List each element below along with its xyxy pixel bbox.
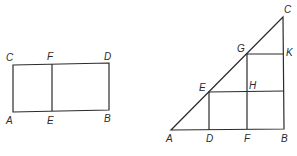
label-c: C	[6, 52, 14, 63]
label-e: E	[199, 82, 206, 93]
geometry-diagram: C F D A E B C G K E H A D F B	[0, 0, 297, 156]
label-h: H	[249, 80, 257, 91]
label-f: F	[244, 133, 251, 144]
triangle-abc	[171, 17, 284, 130]
left-figure: C F D A E B	[5, 51, 111, 126]
label-g: G	[237, 43, 245, 54]
label-b: B	[281, 133, 288, 144]
label-a: A	[165, 133, 173, 144]
label-k: K	[286, 47, 294, 58]
label-d: D	[206, 133, 213, 144]
label-a: A	[5, 115, 13, 126]
rectangle-abdc	[13, 63, 109, 112]
right-figure: C G K E H A D F B	[165, 4, 294, 144]
segment-eh	[208, 91, 284, 92]
label-c: C	[284, 4, 292, 15]
label-f: F	[47, 51, 54, 62]
label-b: B	[104, 113, 111, 124]
label-e: E	[47, 115, 54, 126]
label-d: D	[104, 51, 111, 62]
